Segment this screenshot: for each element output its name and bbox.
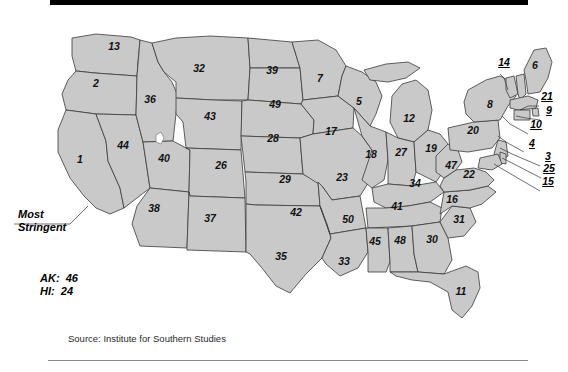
state-rank-tn: 41 [391,200,403,212]
state-rank-nv: 44 [117,139,129,151]
state-rank-wa: 13 [108,40,120,52]
state-rank-ne: 28 [267,132,279,144]
noncontiguous-row: HI: 24 [40,285,78,298]
state-rank-ia: 17 [325,125,337,137]
state-rank-al: 48 [394,234,406,246]
state-rank-callout-nj: 3 [545,150,551,162]
noncontiguous-rank: 24 [61,285,73,297]
state-rank-la: 33 [338,255,350,267]
state-rank-wv: 47 [445,159,457,171]
state-rank-mi: 12 [403,112,415,124]
state-rank-sd: 49 [269,98,281,110]
state-rank-ar: 50 [342,213,354,225]
bottom-divider-rule [48,360,528,361]
us-rank-map: 1256781112131617181920222326272829303132… [0,10,568,340]
state-rank-tx: 35 [275,250,287,262]
state-rank-callout-ma: 10 [530,118,542,130]
state-rank-nm: 37 [204,212,216,224]
state-rank-il: 18 [365,148,377,160]
state-rank-ky: 34 [409,177,421,189]
state-rank-ca: 1 [77,153,83,165]
state-rank-ms: 45 [369,235,381,247]
state-rank-mo: 23 [336,171,348,183]
state-rank-mt: 32 [193,62,205,74]
state-rank-callout-de: 25 [543,162,555,174]
noncontiguous-ranks: AK: 46HI: 24 [40,272,78,297]
state-rank-ga: 30 [426,233,438,245]
state-rank-callout-vt: 14 [498,56,510,68]
state-rank-ks: 29 [279,173,291,185]
state-rank-nd: 39 [266,64,278,76]
state-rank-callout-nh: 4 [529,137,535,149]
state-rank-ok: 42 [290,206,302,218]
state-rank-or: 2 [93,77,99,89]
source-note: Source: Institute for Southern Studies [68,333,226,344]
state-rank-oh: 19 [425,142,437,154]
state-rank-ny: 8 [487,98,493,110]
state-rank-mn: 7 [317,72,323,84]
legend-line-2: Stringent [18,221,66,234]
legend-most-stringent: Most Stringent [18,208,66,233]
state-rank-nc: 16 [446,193,458,205]
state-rank-fl: 11 [456,285,467,297]
top-divider-bar [50,0,528,5]
state-rank-pa: 20 [467,124,479,136]
state-rank-id: 36 [144,93,156,105]
state-rank-wi: 5 [356,95,362,107]
noncontiguous-rank: 46 [66,272,78,284]
legend-line-1: Most [18,208,66,221]
state-rank-callout-ct: 9 [546,104,552,116]
state-rank-me: 6 [532,59,538,71]
state-rank-co: 26 [215,159,227,171]
noncontiguous-row: AK: 46 [40,272,78,285]
noncontiguous-abbr: AK: [40,272,60,284]
state-rank-wy: 43 [204,110,216,122]
state-rank-callout-ri: 21 [541,90,553,102]
state-rank-va: 22 [463,168,475,180]
state-rank-sc: 31 [453,213,465,225]
noncontiguous-abbr: HI: [40,285,55,297]
state-rank-az: 38 [148,202,160,214]
state-rank-ut: 40 [158,152,170,164]
state-rank-in: 27 [395,146,407,158]
state-rank-callout-md: 15 [542,175,554,187]
